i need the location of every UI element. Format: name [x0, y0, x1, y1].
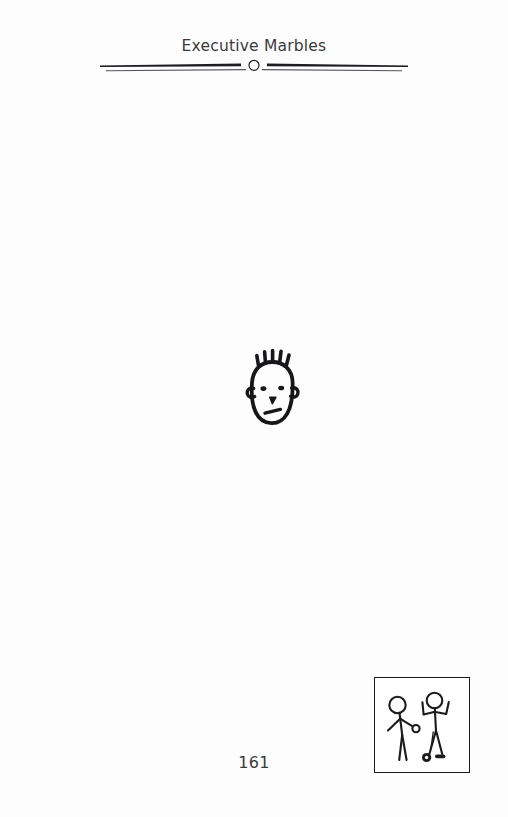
divider-line-right	[267, 64, 408, 68]
held-marble	[412, 725, 419, 732]
divider-underline-right	[262, 69, 402, 71]
marbles-scene-frame	[374, 677, 470, 773]
right-eye	[278, 386, 284, 391]
divider-line-left	[100, 64, 241, 68]
divider-underline-left	[106, 69, 246, 71]
streak-marble	[435, 755, 445, 759]
page-title: Executive Marbles	[182, 39, 327, 55]
cartoon-face-illustration	[236, 343, 308, 433]
rolling-figure-right-arm	[401, 719, 413, 726]
rolling-figure	[388, 697, 420, 760]
rolling-figure-left-leg	[399, 735, 402, 760]
rolling-figure-left-arm	[388, 719, 400, 731]
head-outline	[252, 362, 293, 423]
running-head: Executive Marbles	[0, 36, 508, 55]
celebrating-figure	[422, 693, 448, 754]
rolling-figure-head	[389, 697, 405, 713]
rolling-figure-torso	[400, 713, 403, 735]
celebrating-figure-right-leg	[436, 731, 442, 755]
section-divider	[0, 56, 508, 76]
rolling-figure-right-leg	[402, 735, 406, 760]
celebrating-figure-head	[427, 693, 443, 709]
left-eye	[260, 386, 266, 391]
page-number: 161	[238, 755, 270, 771]
circle-ornament	[249, 60, 259, 70]
book-page: Executive Marbles	[0, 0, 508, 817]
ring-marble-inner	[425, 756, 428, 759]
nose	[270, 397, 276, 403]
mouth	[265, 409, 280, 413]
